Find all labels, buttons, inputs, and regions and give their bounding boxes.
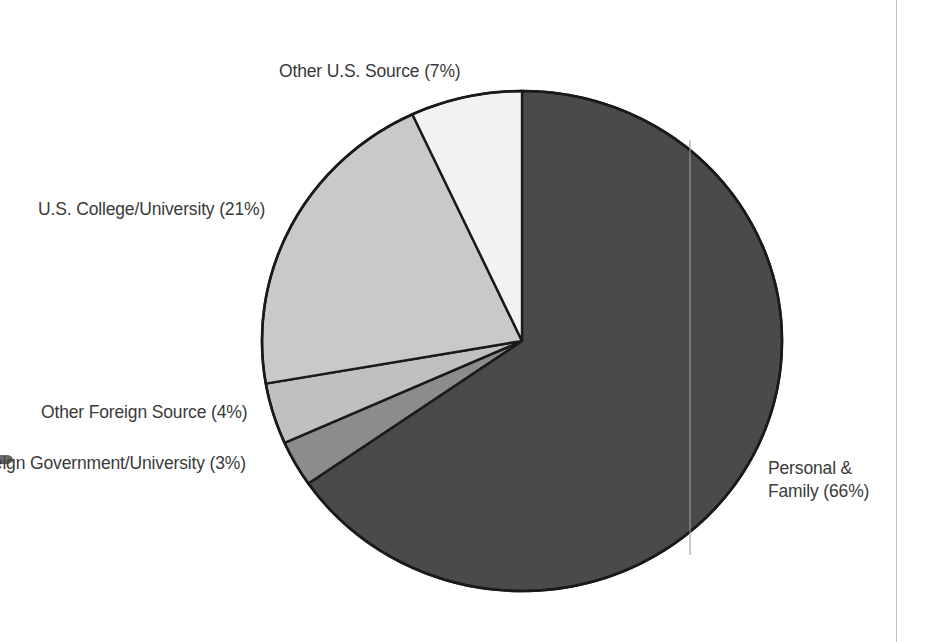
scan-streak-artifact xyxy=(689,140,691,555)
slice-label-foreign-government-university: Foreign Government/University (3%) xyxy=(0,452,246,475)
slice-label-us-college-university: U.S. College/University (21%) xyxy=(38,198,265,221)
slice-label-other-foreign-source: Other Foreign Source (4%) xyxy=(41,401,247,424)
pie-slices xyxy=(262,91,782,591)
pie-chart xyxy=(0,0,937,642)
page-margin-rule xyxy=(896,0,897,642)
pie-chart-page: Other U.S. Source (7%) U.S. College/Univ… xyxy=(0,0,937,642)
slice-label-personal-family-line1: Personal & xyxy=(768,458,852,478)
slice-label-other-us-source: Other U.S. Source (7%) xyxy=(279,60,460,83)
slice-label-personal-family-line2: Family (66%) xyxy=(768,481,869,501)
slice-label-personal-family: Personal &Family (66%) xyxy=(768,457,869,503)
